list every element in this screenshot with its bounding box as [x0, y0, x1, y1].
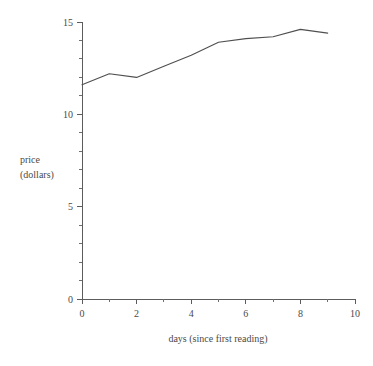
x-axis-tick-labels: 0246810: [80, 308, 361, 319]
y-axis-group: 051015: [63, 17, 82, 305]
x-tick-label: 6: [243, 308, 248, 319]
x-tick-label: 2: [134, 308, 139, 319]
y-tick-label: 0: [68, 294, 73, 305]
x-tick-label: 0: [80, 308, 85, 319]
x-axis-title: days (since first reading): [168, 333, 267, 345]
y-tick-label: 15: [63, 17, 73, 28]
data-series-line-price: [82, 29, 328, 84]
x-axis-group: 0246810: [80, 299, 361, 319]
x-tick-label: 8: [298, 308, 303, 319]
chart-figure: 051015 0246810 days (since first reading…: [0, 0, 373, 366]
y-axis-title-line1: price: [20, 154, 41, 165]
x-tick-label: 4: [189, 308, 194, 319]
x-tick-label: 10: [350, 308, 360, 319]
y-tick-label: 5: [68, 201, 73, 212]
y-axis-tick-labels: 051015: [63, 17, 73, 305]
y-tick-label: 10: [63, 109, 73, 120]
y-axis-title-line2: (dollars): [20, 169, 54, 181]
y-axis-major-ticks: [77, 22, 82, 299]
line-chart-svg: 051015 0246810 days (since first reading…: [0, 0, 373, 366]
